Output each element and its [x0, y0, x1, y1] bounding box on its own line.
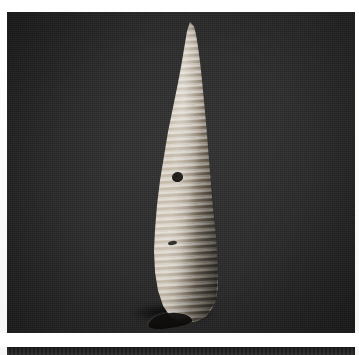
next-photo-plate [7, 347, 355, 355]
plate-gutter [0, 333, 359, 347]
scanned-page [0, 0, 359, 355]
photo-plate [7, 12, 355, 333]
next-plate-caption [7, 347, 8, 348]
plate-vignette [7, 12, 355, 333]
